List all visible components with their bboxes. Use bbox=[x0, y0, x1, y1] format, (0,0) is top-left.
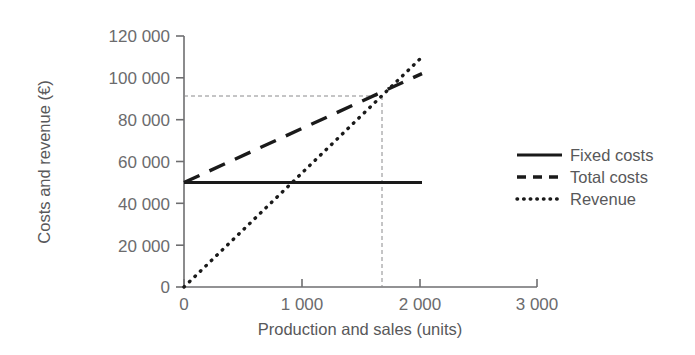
y-tick-label-100000: 100 000 bbox=[109, 69, 170, 88]
x-tick-label-1000: 1 000 bbox=[281, 295, 324, 314]
y-axis-title: Costs and revenue (€) bbox=[35, 80, 53, 243]
break-even-chart: 120 000 100 000 80 000 60 000 40 000 20 … bbox=[0, 0, 695, 355]
series-line-revenue bbox=[184, 57, 422, 287]
legend-label-total-costs: Total costs bbox=[570, 168, 648, 186]
y-axis-ticks bbox=[176, 36, 184, 287]
x-tick-label-3000: 3 000 bbox=[516, 295, 559, 314]
y-tick-label-60000: 60 000 bbox=[118, 153, 170, 172]
y-tick-label-20000: 20 000 bbox=[118, 237, 170, 256]
x-axis-ticks bbox=[184, 279, 537, 287]
legend-label-fixed-costs: Fixed costs bbox=[570, 146, 653, 164]
y-tick-label-0: 0 bbox=[161, 278, 170, 297]
chart-legend: Fixed costs Total costs Revenue bbox=[517, 146, 653, 208]
legend-label-revenue: Revenue bbox=[570, 190, 636, 208]
y-tick-label-120000: 120 000 bbox=[109, 27, 170, 46]
x-tick-label-2000: 2 000 bbox=[399, 295, 442, 314]
y-tick-label-80000: 80 000 bbox=[118, 111, 170, 130]
y-tick-label-40000: 40 000 bbox=[118, 195, 170, 214]
chart-canvas: 120 000 100 000 80 000 60 000 40 000 20 … bbox=[0, 0, 695, 355]
x-tick-label-0: 0 bbox=[179, 295, 188, 314]
x-axis-title: Production and sales (units) bbox=[258, 320, 463, 338]
